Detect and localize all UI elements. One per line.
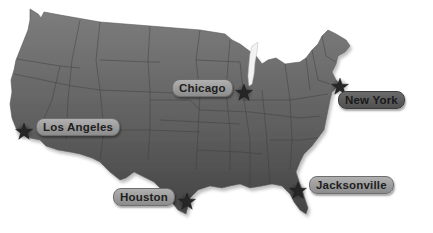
city-label-los-angeles[interactable]: Los Angeles [36,118,120,136]
city-name: Los Angeles [43,121,113,133]
city-label-new-york[interactable]: New York [338,91,405,109]
city-name: New York [345,94,398,106]
city-label-chicago[interactable]: Chicago [172,79,233,97]
city-label-houston[interactable]: Houston [113,188,175,206]
us-map-outline [0,0,433,233]
city-name: Chicago [179,82,226,94]
city-name: Houston [120,191,168,203]
city-label-jacksonville[interactable]: Jacksonville [309,176,394,194]
city-name: Jacksonville [316,179,387,191]
us-city-map: Chicago New York Los Angeles Houston Jac… [0,0,433,233]
